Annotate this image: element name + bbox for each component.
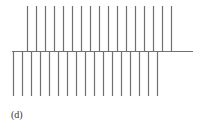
lower-line-group [14, 51, 158, 96]
figure-label: (d) [11, 109, 23, 121]
upper-line-group [28, 6, 172, 51]
line-array-diagram [0, 0, 205, 124]
